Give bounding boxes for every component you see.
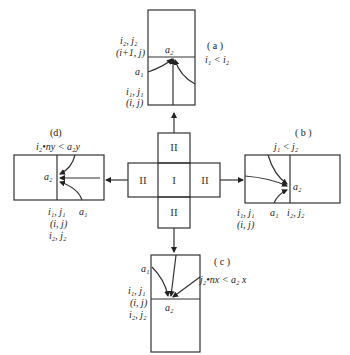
panel-a-title: ( a ) — [207, 40, 223, 51]
panel-d-a2: a₂ — [44, 171, 52, 182]
panel-b-ij2: i₂, j₂ — [287, 207, 305, 218]
panel-a-box — [148, 10, 195, 105]
panel-d-ij1: i₁, j₁ — [48, 206, 66, 217]
panel-a-upper-ij: i₂, j₂ — [120, 35, 138, 46]
panel-b-condition: j₁ < j₂ — [274, 141, 298, 152]
panel-b-coord: (i, j) — [237, 219, 254, 230]
panel-c-condition: j₂•nx < a₂ x — [200, 274, 246, 285]
cell-top: II — [164, 141, 184, 153]
panel-b-a2: a₂ — [293, 181, 301, 192]
panel-d-title: (d) — [50, 127, 62, 138]
panel-a-upper-coord: (i+1, j) — [116, 47, 145, 58]
panel-a-a1: a₁ — [135, 66, 143, 77]
panel-c-coord: (i, j) — [130, 297, 147, 308]
cell-left: II — [133, 174, 153, 186]
panel-c-box — [151, 255, 200, 352]
panel-d-coord: (i, j) — [50, 218, 67, 229]
panel-d-ij2: i₂, j₂ — [49, 230, 67, 241]
panel-a-lower-ij: i₁, j₁ — [126, 86, 144, 97]
panel-c-title: ( c ) — [214, 256, 230, 267]
panel-a-condition: i₁ < i₂ — [205, 54, 229, 65]
panel-d-box — [14, 155, 104, 200]
panel-b-a1: a₁ — [270, 207, 278, 218]
cell-middle: I — [164, 174, 184, 186]
panel-c-a1: a₁ — [141, 263, 149, 274]
cell-bottom: II — [164, 206, 184, 218]
panel-b-ij1: i₁, j₁ — [237, 207, 255, 218]
panel-b-box — [245, 155, 340, 203]
panel-a-a2: a₂ — [165, 44, 173, 55]
panel-d-a1: a₁ — [79, 206, 87, 217]
panel-c-a2: a₂ — [165, 302, 173, 313]
cell-right: II — [195, 174, 215, 186]
panel-a-lower-coord: (i, j) — [126, 97, 143, 108]
panel-c-ij1: i₁, j₁ — [128, 285, 146, 296]
panel-b-title: ( b ) — [295, 127, 312, 138]
panel-c-ij2: i₂, j₂ — [129, 309, 147, 320]
panel-d-condition: i₂•ny < a₂y — [36, 141, 80, 152]
